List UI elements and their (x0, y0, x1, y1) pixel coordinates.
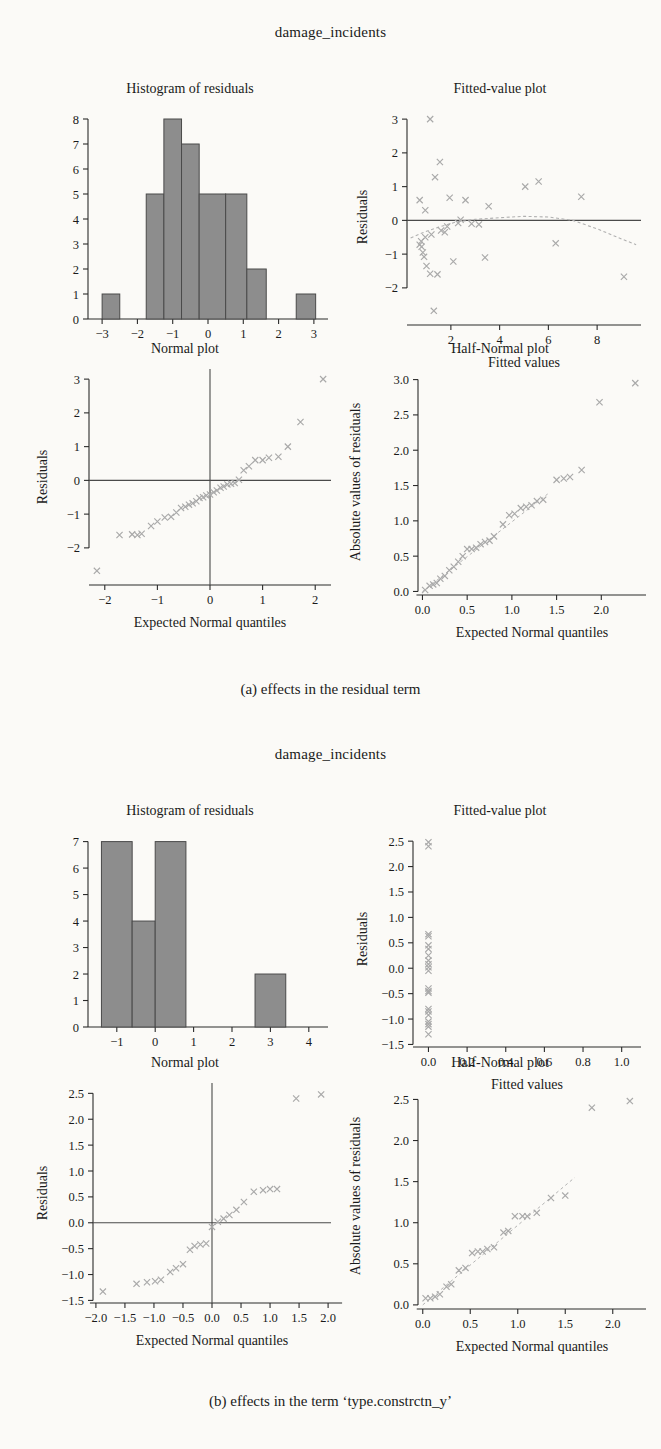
svg-text:3: 3 (392, 113, 398, 127)
svg-text:1.0: 1.0 (504, 603, 520, 617)
chart-cell-hist_b: Histogram of residuals01234567−101234 (40, 803, 340, 1065)
scatter-marker (518, 505, 524, 511)
chart-hist_a: 012345678−3−2−10123 (40, 99, 340, 357)
svg-text:1.5: 1.5 (557, 1317, 573, 1331)
svg-text:5: 5 (73, 188, 79, 202)
scatter-marker (297, 419, 303, 425)
scatter-marker (148, 523, 154, 529)
panel-caption-a: (a) effects in the residual term (0, 681, 661, 698)
svg-text:6: 6 (73, 163, 79, 177)
svg-text:8: 8 (73, 113, 79, 127)
histogram-bar (164, 119, 182, 319)
chart-title-hist_a: Histogram of residuals (40, 81, 340, 97)
svg-text:1.0: 1.0 (262, 1311, 278, 1325)
chart-title-fitted_a: Fitted-value plot (345, 81, 655, 97)
scatter-marker (320, 376, 326, 382)
scatter-marker (482, 254, 488, 260)
svg-text:−1.0: −1.0 (61, 1268, 84, 1282)
svg-text:−1.0: −1.0 (143, 1311, 166, 1325)
scatter-marker (476, 221, 482, 227)
svg-text:−0.5: −0.5 (172, 1311, 195, 1325)
scatter-marker (427, 1295, 433, 1301)
panel-caption-b: (b) effects in the term ‘type.constrctn_… (0, 1393, 661, 1410)
chart-cell-halfnormal_a: Half-Normal plot0.00.51.01.52.02.53.00.0… (340, 341, 660, 659)
svg-text:−2.0: −2.0 (85, 1311, 108, 1325)
svg-text:0: 0 (74, 474, 80, 488)
svg-text:−1: −1 (67, 508, 80, 522)
scatter-marker (425, 843, 431, 849)
x-axis-label: Expected Normal quantiles (136, 1333, 288, 1348)
svg-text:2: 2 (392, 146, 398, 160)
svg-text:0: 0 (207, 593, 213, 607)
histogram-bar (132, 921, 155, 1027)
scatter-marker (252, 457, 258, 463)
svg-text:−2: −2 (67, 541, 80, 555)
scatter-marker (460, 553, 466, 559)
svg-text:2.0: 2.0 (388, 860, 404, 874)
svg-text:0.0: 0.0 (415, 1317, 431, 1331)
svg-text:2.0: 2.0 (605, 1317, 621, 1331)
svg-text:3: 3 (74, 373, 80, 387)
scatter-marker (500, 521, 506, 527)
histogram-bar (146, 194, 164, 319)
scatter-marker (422, 207, 428, 213)
scatter-marker (267, 1186, 273, 1192)
svg-text:2: 2 (229, 1035, 235, 1049)
svg-text:2: 2 (312, 593, 318, 607)
svg-text:7: 7 (73, 138, 79, 152)
scatter-marker (158, 1277, 164, 1283)
scatter-marker (536, 178, 542, 184)
chart-title-halfnormal_a: Half-Normal plot (340, 341, 660, 357)
svg-text:2: 2 (73, 968, 79, 982)
scatter-marker (173, 1265, 179, 1271)
svg-text:0.5: 0.5 (459, 603, 475, 617)
svg-text:1.0: 1.0 (393, 514, 409, 528)
scatter-marker (191, 1243, 197, 1249)
svg-text:0.0: 0.0 (393, 1298, 409, 1312)
svg-text:3: 3 (73, 941, 79, 955)
chart-cell-normal_b: Normal plot−1.5−1.0−0.50.00.51.01.52.02.… (25, 1055, 345, 1373)
scatter-marker (180, 1261, 186, 1267)
panel-supertitle: damage_incidents (0, 24, 661, 41)
scatter-marker (425, 961, 431, 967)
svg-text:0: 0 (73, 1021, 79, 1035)
scatter-marker (425, 1031, 431, 1037)
svg-text:−2: −2 (98, 593, 111, 607)
scatter-marker (226, 1212, 232, 1218)
chart-title-fitted_b: Fitted-value plot (345, 803, 655, 819)
scatter-marker (456, 1267, 462, 1273)
svg-text:2.0: 2.0 (68, 1113, 84, 1127)
scatter-marker (561, 475, 567, 481)
chart-cell-halfnormal_b: Half-Normal plot0.00.51.01.52.02.50.00.5… (340, 1055, 660, 1373)
scatter-marker (293, 1095, 299, 1101)
svg-text:−1: −1 (385, 248, 398, 262)
x-axis-label: Expected Normal quantiles (456, 1339, 608, 1354)
scatter-marker (233, 1207, 239, 1213)
svg-text:1.0: 1.0 (388, 911, 404, 925)
svg-text:0: 0 (152, 1035, 158, 1049)
scatter-marker (437, 159, 443, 165)
y-axis-label: Absolute values of residuals (348, 1117, 363, 1275)
scatter-marker (434, 271, 440, 277)
histogram-bar (199, 194, 225, 319)
chart-cell-hist_a: Histogram of residuals012345678−3−2−1012… (40, 81, 340, 357)
scatter-marker (627, 1098, 633, 1104)
histogram-bar (101, 842, 132, 1027)
svg-text:2.5: 2.5 (393, 408, 409, 422)
scatter-marker (632, 380, 638, 386)
scatter-marker (187, 1247, 193, 1253)
scatter-marker (425, 1012, 431, 1018)
scatter-marker (215, 1219, 221, 1225)
scatter-marker (427, 116, 433, 122)
scatter-marker (462, 1265, 468, 1271)
scatter-marker (506, 512, 512, 518)
scatter-marker (431, 308, 437, 314)
histogram-bar (182, 144, 200, 319)
scatter-marker (116, 532, 122, 538)
svg-text:−0.5: −0.5 (381, 987, 404, 1001)
svg-text:−1: −1 (110, 1035, 123, 1049)
svg-text:2.0: 2.0 (393, 444, 409, 458)
svg-text:2.0: 2.0 (593, 603, 609, 617)
svg-text:1.5: 1.5 (393, 1175, 409, 1189)
scatter-marker (534, 1210, 540, 1216)
